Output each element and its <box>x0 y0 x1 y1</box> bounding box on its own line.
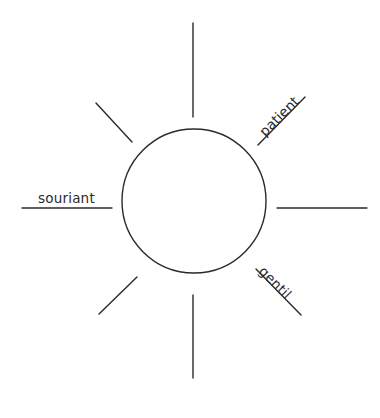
word-web-diagram: patient gentil souriant <box>0 0 380 418</box>
ray-label-bottom-right: gentil <box>256 263 295 302</box>
ray-label-left: souriant <box>38 190 95 206</box>
ray-line-top-left[interactable] <box>96 103 132 142</box>
ray-line-bottom-left[interactable] <box>99 277 137 314</box>
ray-label-top-right: patient <box>256 93 302 139</box>
center-bubble[interactable] <box>122 129 266 273</box>
worksheet-canvas: patient gentil souriant <box>0 0 380 418</box>
